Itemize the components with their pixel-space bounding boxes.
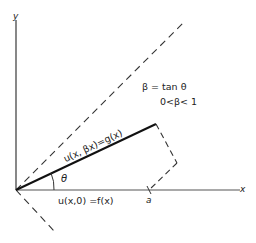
beta-range: 0<β< 1 [160, 97, 197, 107]
dependence-dashed-2 [149, 163, 177, 190]
boundary-line-g [16, 124, 156, 190]
beta-definition: β = tan θ [142, 82, 186, 92]
diagram-lines [0, 0, 256, 243]
characteristics-diagram: y x β = tan θ 0<β< 1 u(x, βx)=g(x) u(x,0… [0, 0, 256, 243]
point-a-label: a [146, 196, 152, 205]
dependence-dashed-1 [156, 124, 177, 163]
angle-label: θ [61, 174, 67, 184]
upper-dashed-characteristic [16, 23, 183, 190]
lower-line-label: u(x,0) =f(x) [58, 196, 113, 206]
y-axis-label: y [13, 12, 18, 21]
lower-dashed-characteristic [16, 190, 55, 232]
angle-arc [51, 173, 54, 190]
x-axis-label: x [240, 185, 245, 194]
